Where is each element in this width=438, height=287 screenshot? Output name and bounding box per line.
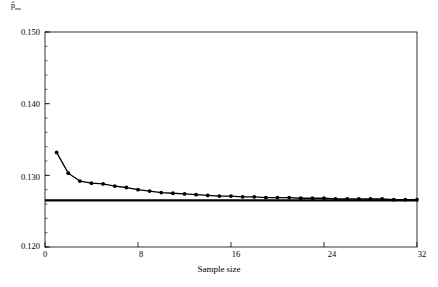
- axes-frame: [45, 32, 417, 247]
- axis-ticks: [45, 32, 417, 247]
- series-markers: [55, 151, 419, 202]
- chart-figure: p̂mc 0.150 0.140 0.130 0.120 0 8 16 24 3…: [0, 0, 438, 287]
- series-line: [57, 152, 417, 199]
- plot-canvas: [0, 0, 438, 287]
